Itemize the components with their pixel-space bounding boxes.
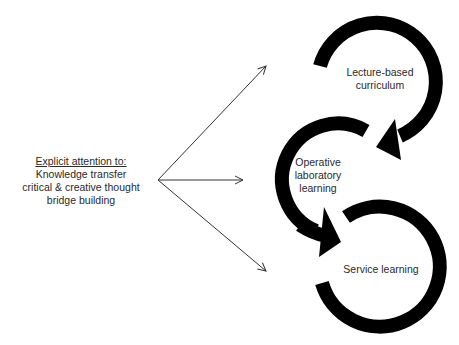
arrow-to-lecture bbox=[158, 66, 266, 180]
label-line: curriculum bbox=[330, 79, 430, 92]
label-line: Lecture-based bbox=[330, 66, 430, 79]
label-line: learning bbox=[268, 182, 368, 195]
attention-item: critical & creative thought bbox=[0, 181, 162, 194]
explicit-attention-heading: Explicit attention to: bbox=[0, 155, 162, 168]
lecture-based-label: Lecture-based curriculum bbox=[330, 66, 430, 92]
attention-item: Knowledge transfer bbox=[0, 168, 162, 181]
arrow-to-service bbox=[158, 180, 266, 271]
label-line: Service learning bbox=[331, 263, 431, 276]
lecture-arrowhead bbox=[376, 119, 401, 160]
service-learning-label: Service learning bbox=[331, 263, 431, 276]
fan-arrows bbox=[158, 66, 266, 271]
attention-item: bridge building bbox=[0, 194, 162, 207]
label-line: Operative bbox=[268, 156, 368, 169]
operative-label: Operative laboratory learning bbox=[268, 156, 368, 195]
label-line: laboratory bbox=[268, 169, 368, 182]
explicit-attention-block: Explicit attention to: Knowledge transfe… bbox=[0, 155, 162, 207]
